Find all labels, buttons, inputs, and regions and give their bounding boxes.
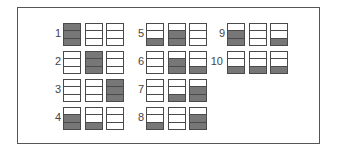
empty-cell [190,58,206,65]
pattern-box [146,107,164,130]
empty-cell [64,86,80,93]
pattern-box [189,79,207,102]
pattern-box [85,51,103,74]
pattern-box [85,23,103,46]
empty-cell [147,114,163,121]
filled-cell [169,94,185,101]
pattern-box [146,79,164,102]
empty-cell [147,30,163,37]
filled-cell [190,66,206,73]
empty-cell [64,94,80,101]
filled-cell [86,66,102,73]
filled-cell [64,38,80,45]
empty-cell [190,38,206,45]
empty-cell [271,58,287,65]
pattern-box [63,51,81,74]
filled-cell [190,94,206,101]
filled-cell [169,66,185,73]
filled-cell [107,94,123,101]
filled-cell [147,122,163,129]
pattern-box [63,79,81,102]
pattern-box [106,79,124,102]
filled-cell [190,86,206,93]
empty-cell [250,30,266,37]
empty-cell [169,122,185,129]
empty-cell [271,30,287,37]
filled-cell [228,38,244,45]
pattern-box [249,51,267,74]
pattern-box [270,23,288,46]
filled-cell [107,86,123,93]
empty-cell [190,30,206,37]
filled-cell [190,114,206,121]
filled-cell [64,122,80,129]
empty-cell [86,38,102,45]
pattern-box [63,107,81,130]
empty-cell [107,58,123,65]
pattern-box [168,79,186,102]
empty-cell [250,58,266,65]
empty-cell [169,114,185,121]
empty-cell [107,114,123,121]
empty-cell [86,86,102,93]
pattern-box [63,23,81,46]
filled-cell [86,122,102,129]
pattern-label: 8 [130,111,144,123]
pattern-box [189,51,207,74]
empty-cell [147,86,163,93]
pattern-box [227,23,245,46]
pattern-box [189,107,207,130]
empty-cell [228,58,244,65]
filled-cell [228,30,244,37]
pattern-box [106,51,124,74]
filled-cell [64,114,80,121]
pattern-label: 6 [130,55,144,67]
pattern-box [146,23,164,46]
empty-cell [107,38,123,45]
filled-cell [147,38,163,45]
filled-cell [64,30,80,37]
empty-cell [107,66,123,73]
pattern-label: 5 [130,27,144,39]
empty-cell [147,58,163,65]
pattern-label: 4 [47,111,61,123]
pattern-box [106,107,124,130]
empty-cell [147,66,163,73]
empty-cell [86,94,102,101]
filled-cell [169,58,185,65]
pattern-label: 7 [130,83,144,95]
pattern-box [249,23,267,46]
filled-cell [271,66,287,73]
empty-cell [107,30,123,37]
pattern-label: 1 [47,27,61,39]
pattern-box [85,107,103,130]
pattern-label: 2 [47,55,61,67]
pattern-box [270,51,288,74]
pattern-box [168,51,186,74]
filled-cell [271,38,287,45]
pattern-label: 9 [211,27,225,39]
pattern-box [106,23,124,46]
empty-cell [107,122,123,129]
empty-cell [147,94,163,101]
pattern-box [146,51,164,74]
filled-cell [169,30,185,37]
filled-cell [228,66,244,73]
pattern-box [168,107,186,130]
empty-cell [64,66,80,73]
empty-cell [86,114,102,121]
pattern-label: 3 [47,83,61,95]
pattern-box [227,51,245,74]
filled-cell [86,58,102,65]
pattern-box [85,79,103,102]
empty-cell [86,30,102,37]
pattern-box [168,23,186,46]
empty-cell [169,86,185,93]
filled-cell [169,38,185,45]
empty-cell [250,38,266,45]
empty-cell [64,58,80,65]
pattern-label: 10 [209,55,223,67]
filled-cell [190,122,206,129]
pattern-box [189,23,207,46]
filled-cell [250,66,266,73]
